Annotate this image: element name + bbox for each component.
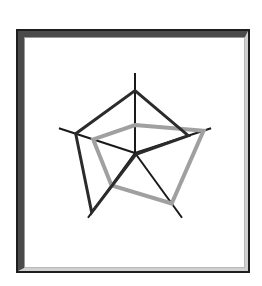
radar-series [76, 91, 204, 213]
axis-line [135, 153, 182, 218]
radar-axes [59, 73, 211, 218]
radar-chart [0, 0, 262, 286]
